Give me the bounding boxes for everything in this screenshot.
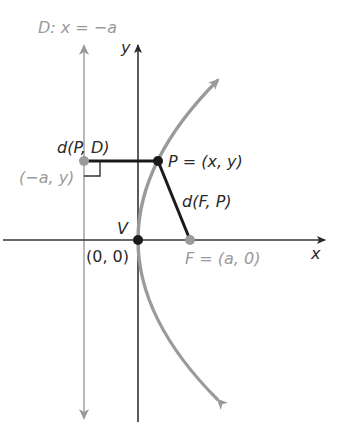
parabola-diagram: D: x = −a y x d(P, D) (−a, y) P = (x, y)… — [0, 0, 342, 436]
origin-label: (0, 0) — [86, 247, 129, 266]
y-axis-label: y — [120, 38, 131, 57]
directrix-point-label: (−a, y) — [19, 168, 74, 187]
x-axis-label: x — [310, 244, 321, 263]
distance-PD-label: d(P, D) — [57, 138, 110, 157]
vertex-label: V — [117, 219, 129, 238]
focus-point — [185, 235, 195, 245]
point-P-label: P = (x, y) — [168, 152, 243, 171]
directrix-label: D: x = −a — [38, 18, 117, 37]
focus-label: F = (a, 0) — [185, 249, 260, 268]
diagram-canvas: D: x = −a y x d(P, D) (−a, y) P = (x, y)… — [0, 0, 342, 436]
distance-FP-label: d(F, P) — [182, 192, 232, 211]
point-P — [153, 156, 163, 166]
point-on-directrix — [79, 156, 89, 166]
vertex-point — [133, 235, 143, 245]
